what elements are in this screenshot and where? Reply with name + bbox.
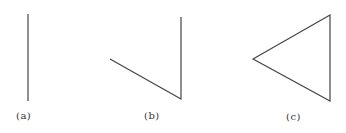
figure-label-a: (a) [16,110,31,121]
figure-shape-b [110,17,181,99]
figure-shape-c [253,15,330,101]
figure-label-b: (b) [144,110,160,121]
figure-label-c: (c) [286,111,301,122]
